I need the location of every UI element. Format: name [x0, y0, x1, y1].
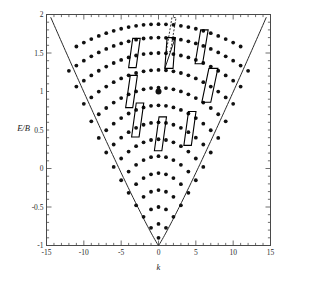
lattice-point — [231, 41, 235, 45]
lattice-point — [172, 215, 176, 219]
y-tick-label: -1 — [37, 241, 43, 250]
x-tick-label: -5 — [118, 248, 124, 257]
lattice-point — [194, 178, 198, 182]
lattice-point — [186, 191, 190, 195]
lattice-point — [142, 37, 146, 41]
lattice-point — [179, 144, 183, 148]
lattice-point — [186, 39, 190, 43]
lattice-point — [201, 122, 205, 126]
lattice-point — [82, 102, 86, 106]
lattice-point — [142, 69, 146, 73]
x-tick-label: 5 — [194, 248, 198, 257]
lattice-point — [164, 226, 168, 230]
plot-frame — [47, 15, 271, 246]
lattice-point — [186, 170, 190, 174]
lattice-point — [104, 106, 108, 110]
lattice-point — [134, 24, 138, 28]
lattice-point — [112, 80, 116, 84]
marked-lattice-point — [156, 89, 162, 95]
lattice-point — [224, 54, 228, 58]
lattice-point — [157, 171, 161, 175]
lattice-point — [201, 143, 205, 147]
lattice-point — [127, 112, 131, 116]
lattice-point — [104, 47, 108, 51]
lattice-point — [157, 68, 161, 72]
lattice-point — [97, 50, 101, 54]
lattice-point — [104, 85, 108, 89]
lattice-point — [149, 104, 153, 108]
lattice-point — [194, 77, 198, 81]
lattice-point — [216, 50, 220, 54]
y-tick-label: -0.5 — [32, 203, 44, 212]
lattice-point — [142, 158, 146, 162]
lattice-point — [149, 86, 153, 90]
lattice-point — [104, 31, 108, 35]
lattice-point — [149, 226, 153, 230]
lattice-point — [186, 56, 190, 60]
lattice-point — [104, 65, 108, 69]
lattice-point — [149, 155, 153, 159]
lattice-point — [164, 22, 168, 26]
x-tick-label: 10 — [229, 248, 237, 257]
lattice-point — [149, 208, 153, 212]
lattice-point — [97, 90, 101, 94]
lattice-point — [239, 45, 243, 49]
x-tick-label: 15 — [267, 248, 275, 257]
lattice-point — [134, 144, 138, 148]
lattice-point — [216, 136, 220, 140]
lattice-point — [119, 116, 123, 120]
cell-right-lower — [184, 112, 196, 146]
lattice-point — [149, 121, 153, 125]
lattice-point — [127, 130, 131, 134]
lattice-point — [119, 136, 123, 140]
y-tick-label: 1 — [40, 87, 44, 96]
lattice-point — [164, 86, 168, 90]
y-tick-label: 1.5 — [34, 49, 44, 58]
lattice-point — [186, 92, 190, 96]
lattice-point — [119, 96, 123, 100]
lattice-point — [216, 112, 220, 116]
lattice-point — [112, 101, 116, 105]
lattice-point — [104, 128, 108, 132]
lattice-point — [209, 85, 213, 89]
lattice-point — [119, 77, 123, 81]
axis-ticks — [47, 15, 271, 246]
lattice-point — [157, 188, 161, 192]
lattice-point — [172, 176, 176, 180]
lattice-point — [97, 136, 101, 140]
lattice-point — [209, 128, 213, 132]
lattice-point — [164, 155, 168, 159]
lattice-point — [201, 80, 205, 84]
lattice-point — [134, 71, 138, 75]
lattice-point — [89, 54, 93, 58]
lattice-point — [142, 176, 146, 180]
lattice-point — [134, 203, 138, 207]
lattice-point — [172, 158, 176, 162]
lattice-point — [149, 190, 153, 194]
lattice-point — [157, 154, 161, 158]
lattice-point — [149, 172, 153, 176]
lattice-point — [194, 96, 198, 100]
lattice-point — [224, 95, 228, 99]
lattice-point — [142, 215, 146, 219]
lattice-point — [74, 64, 78, 68]
lattice-point — [97, 69, 101, 73]
lattice-point — [231, 79, 235, 83]
lattice-point — [194, 136, 198, 140]
lattice-point — [179, 54, 183, 58]
lattice-point — [194, 41, 198, 45]
x-axis-title: k — [157, 262, 161, 272]
lattice-point — [172, 123, 176, 127]
lattice-point — [186, 150, 190, 154]
lattice-point — [201, 165, 205, 169]
lattice-point — [209, 151, 213, 155]
lattice-point — [157, 36, 161, 40]
lattice-point — [224, 37, 228, 41]
lattice-point — [209, 106, 213, 110]
lattice-point — [134, 126, 138, 130]
lattice-point — [186, 130, 190, 134]
lattice-point — [119, 157, 123, 161]
lattice-point — [164, 208, 168, 212]
lattice-point — [179, 24, 183, 28]
lattice-point — [112, 143, 116, 147]
